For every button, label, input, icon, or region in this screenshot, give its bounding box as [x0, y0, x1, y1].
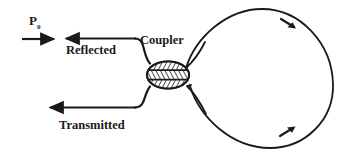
fiber-loop: [183, 9, 333, 148]
coupler-band-middle: [147, 71, 189, 80]
figure-canvas: P0 Reflected Transmitted: [0, 0, 348, 156]
ring-resonator-diagram: P0 Reflected Transmitted: [0, 0, 348, 156]
input-power-label: P0: [29, 13, 41, 31]
coupler-ellipse: [147, 62, 189, 89]
loop-lower-stub: [188, 85, 191, 86]
loop-path: [186, 9, 333, 148]
reflected-label: Reflected: [66, 43, 116, 57]
loop-top-direction-arrow: [281, 19, 296, 29]
coupler-label: Coupler: [140, 33, 184, 47]
coupler-to-loop-upper: [186, 42, 205, 68]
transmitted-label: Transmitted: [59, 118, 125, 132]
loop-bottom-direction-arrow: [280, 127, 296, 137]
transmitted-sbend: [135, 87, 150, 108]
transmitted-waveguide: [50, 87, 150, 108]
input-power-symbol: P: [29, 13, 37, 28]
input-power-subscript: 0: [37, 23, 41, 31]
